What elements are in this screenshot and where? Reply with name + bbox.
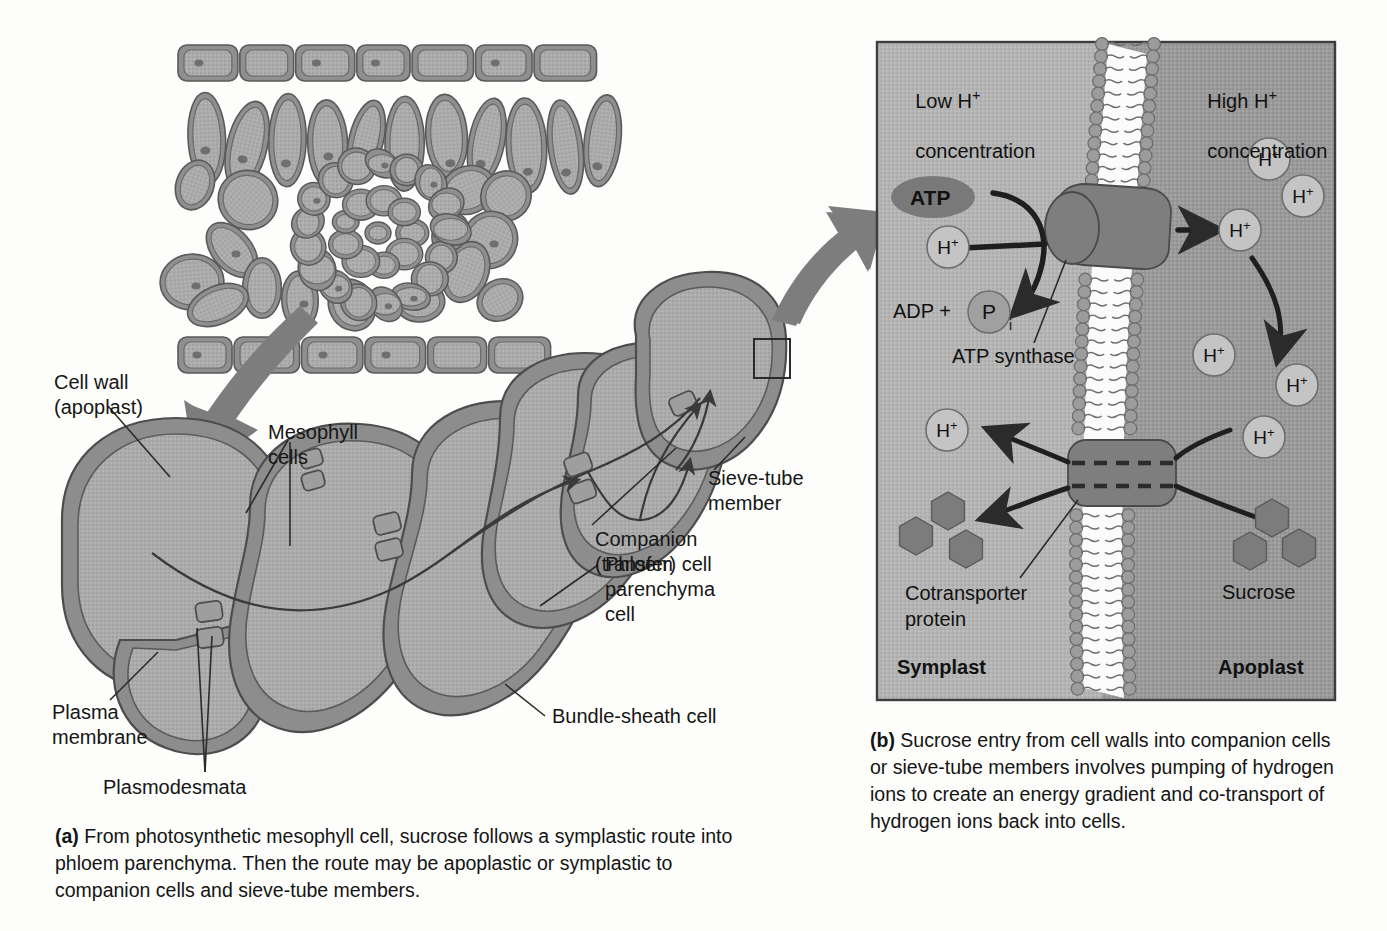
epidermis-cell-interior (363, 50, 404, 76)
high-h-text: High H+ (1207, 90, 1277, 112)
upper-epidermis-row (178, 45, 597, 81)
high-h-text-2: concentration (1207, 140, 1327, 162)
epidermis-cell-interior (184, 342, 226, 368)
phospholipid-head (1122, 608, 1135, 621)
phospholipid-head (1070, 645, 1083, 658)
phospholipid-head (1123, 682, 1136, 695)
proton-charge: + (1217, 343, 1225, 358)
phospholipid-head (1126, 360, 1139, 373)
phospholipid-head (1070, 620, 1083, 633)
phospholipid-head (1131, 273, 1144, 286)
nucleus (410, 296, 417, 302)
epidermis-cell-interior (540, 50, 591, 76)
proton-charge: + (950, 418, 958, 433)
nucleus (430, 182, 437, 188)
bundle-cell-interior (434, 219, 468, 241)
phospholipid-head (1070, 534, 1083, 547)
nucleus (313, 198, 320, 204)
phospholipid-head (1071, 682, 1084, 695)
nucleus (312, 60, 321, 67)
phospholipid-head (1148, 38, 1161, 51)
phospholipid-head (1124, 422, 1137, 435)
phospholipid-head (1089, 124, 1102, 137)
label-sucrose: Sucrose (1222, 580, 1295, 605)
caption-a-text: From photosynthetic mesophyll cell, sucr… (55, 825, 732, 901)
label-high-h-concentration: High H+ concentration (1185, 58, 1327, 189)
phospholipid-head (1145, 75, 1158, 88)
cotransporter-protein-shape (1068, 440, 1176, 506)
label-mesophyll-cells: Mesophyll cells (268, 420, 358, 470)
phospholipid-head (1122, 509, 1135, 522)
phospholipid-head (1126, 372, 1139, 385)
phospholipid-head (1077, 298, 1090, 311)
phospholipid-head (1096, 38, 1109, 51)
phospholipid-head (1140, 137, 1153, 150)
proton-charge: + (1267, 425, 1275, 440)
phospholipid-head (1073, 397, 1086, 410)
phospholipid-head (1122, 521, 1135, 534)
plasmodesma (196, 626, 224, 648)
phospholipid-head (1142, 112, 1155, 125)
phospholipid-head (1088, 137, 1101, 150)
nucleus (319, 352, 328, 359)
bundle-cell-interior (432, 193, 461, 216)
phospholipid-head (1124, 410, 1137, 423)
epidermis-cell-interior (302, 50, 349, 76)
phospholipid-head (1094, 62, 1107, 75)
lower-epidermis-row (178, 337, 551, 373)
low-h-text: Low H+ (915, 90, 980, 112)
phospholipid-head (1137, 174, 1150, 187)
caption-b-text: Sucrose entry from cell walls into compa… (870, 729, 1334, 832)
proton-charge: + (1300, 373, 1308, 388)
vascular-cell-interior (392, 202, 416, 221)
epidermis-cell-interior (246, 50, 288, 76)
label-phosphate: P (982, 299, 996, 324)
figure-canvas: H+H+H+H+H+H+H+H+ Cell wall (apoplast) Me… (0, 0, 1387, 931)
caption-b: (b) Sucrose entry from cell walls into c… (870, 727, 1340, 835)
phospholipid-head (1122, 534, 1135, 547)
phospholipid-head (1144, 87, 1157, 100)
nucleus (300, 300, 309, 307)
label-adp-plus: ADP + (893, 299, 951, 324)
epidermis-cell-interior (434, 342, 481, 368)
label-sieve-tube-member: Sieve-tube member (708, 466, 804, 516)
phospholipid-head (1127, 348, 1140, 361)
phospholipid-head (1077, 310, 1090, 323)
phospholipid-head (1122, 546, 1135, 559)
phospholipid-head (1147, 50, 1160, 63)
phospholipid-head (1070, 546, 1083, 559)
nucleus (491, 60, 500, 67)
phospholipid-head (1072, 422, 1085, 435)
phospholipid-head (1070, 521, 1083, 534)
epidermis-cell-interior (308, 342, 357, 368)
phospholipid-head (1123, 670, 1136, 683)
label-low-h-concentration: Low H+ concentration (893, 58, 1035, 189)
phospholipid-head (1070, 558, 1083, 571)
label-plasmodesmata: Plasmodesmata (103, 775, 246, 800)
nucleus (490, 240, 499, 247)
vascular-core-interior (369, 226, 387, 240)
atp-synthase-protein (1045, 184, 1171, 269)
phospholipid-head (1091, 100, 1104, 113)
phospholipid-head (1122, 645, 1135, 658)
phospholipid-head (1129, 310, 1142, 323)
label-bundle-sheath-cell: Bundle-sheath cell (552, 704, 717, 729)
epidermis-cell-interior (371, 342, 420, 368)
phospholipid-head (1127, 335, 1140, 348)
spongy-cell-interior (248, 263, 277, 314)
vascular-cell-interior (333, 234, 359, 255)
proton-charge: + (1243, 218, 1251, 233)
phospholipid-head (1070, 509, 1083, 522)
phospholipid-head (1070, 633, 1083, 646)
phospholipid-head (1129, 298, 1142, 311)
epidermis-cell-interior (418, 50, 467, 76)
palisade-cell-interior (548, 104, 583, 189)
phospholipid-head (1087, 149, 1100, 162)
phospholipid-head (1122, 571, 1135, 584)
phospholipid-head (1122, 583, 1135, 596)
phospholipid-head (1122, 620, 1135, 633)
phospholipid-head (1074, 360, 1087, 373)
phospholipid-head (1093, 75, 1106, 88)
phospholipid-head (1075, 335, 1088, 348)
phospholipid-head (1076, 323, 1089, 336)
